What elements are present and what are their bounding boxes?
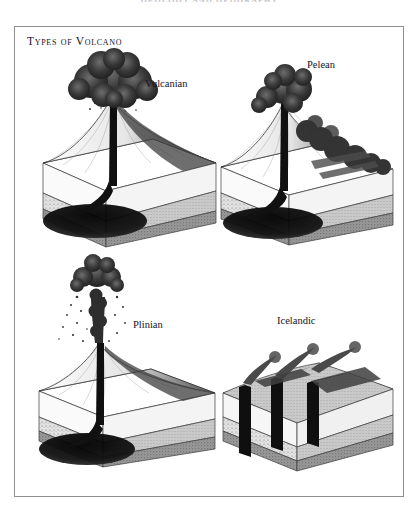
pelean-illustration [215,59,405,251]
ash-cloud [70,254,124,292]
page-title: Types of Volcano [27,35,122,47]
eruption-column [89,289,108,344]
figure-label-pelean: Pelean [307,59,335,70]
figure-label-icelandic: Icelandic [277,315,315,326]
volcanic-conduit [280,103,288,191]
figure-icelandic: Icelandic [215,327,405,475]
figure-pelean: Pelean [215,59,405,251]
plate-frame: Types of Volcano [14,26,404,497]
vulcanian-illustration [33,51,223,251]
plinian-illustration [33,253,223,475]
figure-label-plinian: Plinian [133,319,163,330]
volcanic-conduit [96,343,104,425]
figure-vulcanian: Vulcanian [33,51,223,251]
icelandic-illustration [215,327,405,475]
figure-plinian: Plinian [33,253,223,475]
figure-label-vulcanian: Vulcanian [145,78,188,89]
volcanic-conduit [109,99,117,186]
running-header: GEOLOGY AND GEOGRAPHY [0,0,419,2]
